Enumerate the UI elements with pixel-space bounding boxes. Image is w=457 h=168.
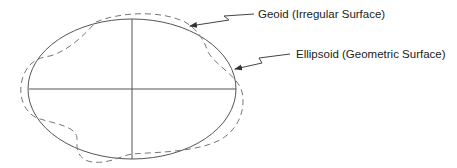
geoid-leader-line	[190, 14, 254, 26]
ellipsoid-leader-line	[235, 54, 290, 69]
ellipsoid-label: Ellipsoid (Geometric Surface)	[296, 48, 446, 60]
geoid-label: Geoid (Irregular Surface)	[258, 8, 385, 20]
geoid-ellipsoid-diagram: Geoid (Irregular Surface) Ellipsoid (Geo…	[0, 0, 457, 168]
